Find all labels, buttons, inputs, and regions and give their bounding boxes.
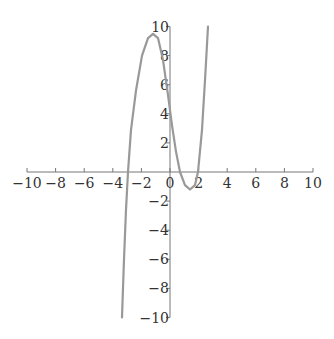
y-tick-label: −2 [148,193,169,209]
x-tick-label: −8 [45,175,66,191]
y-tick-label: 2 [160,135,169,151]
y-tick-label: −8 [148,280,169,296]
y-tick-label: −10 [139,310,169,326]
x-tick-label: 4 [223,175,232,191]
y-tick-label: 4 [160,106,169,122]
y-tick-label: 10 [151,19,169,35]
y-tick-label: −4 [148,222,169,238]
x-tick-label: −4 [102,175,123,191]
x-tick-label: 8 [280,175,289,191]
x-tick-label: −6 [74,175,95,191]
x-tick-label: 6 [251,175,260,191]
x-tick-label: −2 [131,175,152,191]
x-tick-label: 10 [304,175,322,191]
x-tick-label: −10 [12,175,42,191]
x-tick-label: 0 [166,175,175,191]
y-tick-label: −6 [148,251,169,267]
function-plot: −10−8−6−4−20246810−10−8−6−4−2246810 [0,0,334,339]
